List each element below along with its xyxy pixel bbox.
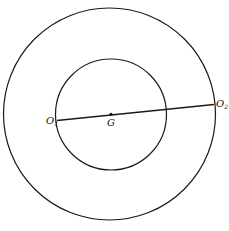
- label-o1: O1: [46, 115, 58, 127]
- concentric-circles-diagram: O1 G O2: [0, 0, 229, 231]
- point-g: [109, 113, 112, 116]
- label-g: G: [107, 117, 115, 128]
- line-o1-o2: [57, 105, 214, 121]
- label-o2: O2: [216, 98, 228, 110]
